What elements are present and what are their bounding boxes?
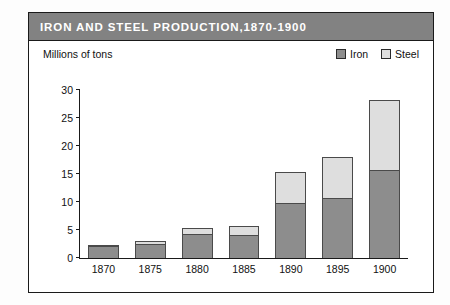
chart-title: IRON AND STEEL PRODUCTION,1870-1900 xyxy=(29,21,307,33)
legend-item-steel: Steel xyxy=(381,48,419,60)
legend-swatch-steel xyxy=(381,49,391,59)
bar-1870 xyxy=(88,245,119,258)
y-axis-tick-label: 5 xyxy=(67,225,80,236)
bar-1890 xyxy=(275,172,306,258)
bar-segment-iron xyxy=(369,170,400,258)
legend-swatch-iron xyxy=(336,49,346,59)
bar-segment-steel xyxy=(229,226,260,235)
x-axis-tick-label: 1875 xyxy=(127,258,174,275)
bar-segment-iron xyxy=(88,246,119,258)
chart-figure: Source: Historical Statistics of the Uni… xyxy=(0,0,450,305)
x-axis-tick-label: 1870 xyxy=(80,258,127,275)
bar-segment-iron xyxy=(182,234,213,258)
legend-label-iron: Iron xyxy=(350,48,368,60)
y-axis-tick-mark xyxy=(76,229,80,231)
bar-1885 xyxy=(229,226,260,258)
bar-1900 xyxy=(369,100,400,258)
x-axis-tick-label: 1900 xyxy=(361,258,408,275)
bar-segment-iron xyxy=(275,203,306,258)
x-axis-tick-label: 1880 xyxy=(174,258,221,275)
y-axis-tick-mark xyxy=(76,117,80,119)
chart-panel: IRON AND STEEL PRODUCTION,1870-1900 Mill… xyxy=(28,12,434,293)
chart-body: Millions of tons Iron Steel 051015202530… xyxy=(29,40,433,292)
plot-area: 0510152025301870187518801885189018951900 xyxy=(79,90,408,259)
y-axis-tick-label: 0 xyxy=(67,253,80,264)
bar-1895 xyxy=(322,157,353,258)
y-axis-title: Millions of tons xyxy=(43,48,112,60)
y-axis-tick-mark xyxy=(76,145,80,147)
x-axis-tick-label: 1885 xyxy=(221,258,268,275)
bar-segment-iron xyxy=(135,244,166,258)
y-axis-tick-label: 15 xyxy=(61,169,80,180)
x-axis-tick-label: 1895 xyxy=(314,258,361,275)
chart-title-bar: IRON AND STEEL PRODUCTION,1870-1900 xyxy=(29,13,433,41)
y-axis-tick-label: 10 xyxy=(61,197,80,208)
legend-label-steel: Steel xyxy=(395,48,419,60)
bar-1875 xyxy=(135,241,166,258)
bar-segment-steel xyxy=(322,157,353,198)
y-axis-tick-label: 25 xyxy=(61,113,80,124)
x-axis-tick-label: 1890 xyxy=(267,258,314,275)
bar-segment-iron xyxy=(229,235,260,258)
legend-item-iron: Iron xyxy=(336,48,368,60)
bar-segment-iron xyxy=(322,198,353,258)
y-axis-tick-mark xyxy=(76,201,80,203)
bar-1880 xyxy=(182,228,213,258)
y-axis-tick-label: 30 xyxy=(61,85,80,96)
y-axis-tick-mark xyxy=(76,89,80,91)
chart-legend: Iron Steel xyxy=(336,48,419,60)
y-axis-tick-label: 20 xyxy=(61,141,80,152)
bar-segment-steel xyxy=(275,172,306,203)
y-axis-tick-mark xyxy=(76,173,80,175)
bar-segment-steel xyxy=(369,100,400,170)
